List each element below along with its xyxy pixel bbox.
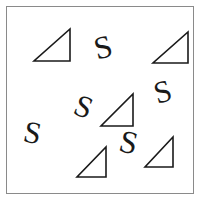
triangle-outline — [101, 94, 133, 126]
triangle-shape — [144, 136, 178, 172]
triangle-shape — [33, 28, 73, 66]
stimulus-canvas: S S S S S — [0, 0, 203, 205]
triangle-outline — [145, 137, 173, 167]
triangle-outline — [77, 147, 106, 177]
triangle-shape — [152, 31, 192, 69]
triangle-shape — [76, 146, 110, 182]
triangle-outline — [153, 32, 188, 63]
triangle-outline — [34, 29, 70, 61]
